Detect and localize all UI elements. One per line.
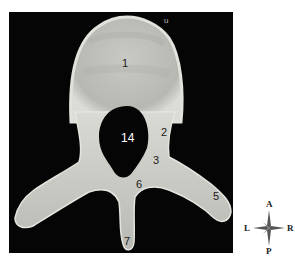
corner-mark: u — [164, 17, 168, 25]
label-vertebral-foramen: 14 — [121, 132, 134, 144]
compass-posterior: P — [266, 247, 272, 256]
label-pedicle: 2 — [161, 127, 167, 138]
compass-anterior: A — [266, 200, 273, 209]
label-lamina: 6 — [136, 179, 142, 190]
compass-right: R — [287, 224, 294, 233]
compass-left: L — [244, 224, 250, 233]
orientation-compass: A P L R — [244, 200, 294, 255]
label-transverse-process: 5 — [213, 191, 219, 202]
label-vertebral-body: 1 — [122, 58, 128, 69]
label-superior-articular: 3 — [153, 155, 159, 166]
specimen-photo: u 1 2 3 5 6 7 14 — [9, 12, 233, 253]
label-spinous-process: 7 — [124, 236, 130, 247]
